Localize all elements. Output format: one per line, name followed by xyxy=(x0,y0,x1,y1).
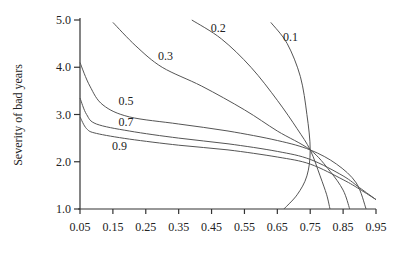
y-tick-label: 5.0 xyxy=(56,13,71,27)
y-tick-label: 4.0 xyxy=(56,60,71,74)
x-tick-label: 0.75 xyxy=(300,220,321,234)
curve-label: 0.5 xyxy=(119,94,134,108)
curve-label: 0.2 xyxy=(211,21,226,35)
y-tick-label: 1.0 xyxy=(56,202,71,216)
curve-0.1 xyxy=(271,22,310,209)
x-tick-label: 0.15 xyxy=(102,220,123,234)
curve-0.3 xyxy=(113,22,350,209)
x-tick-label: 0.35 xyxy=(168,220,189,234)
y-axis-title: Severity of bad years xyxy=(11,64,25,166)
curve-label: 0.1 xyxy=(283,30,298,44)
x-tick-label: 0.65 xyxy=(267,220,288,234)
curve-label: 0.7 xyxy=(119,115,134,129)
x-tick-label: 0.05 xyxy=(70,220,91,234)
curve-0.2 xyxy=(192,20,330,209)
x-tick-label: 0.25 xyxy=(135,220,156,234)
x-tick-label: 0.45 xyxy=(201,220,222,234)
curve-label: 0.9 xyxy=(112,139,127,153)
curve-0.5 xyxy=(80,63,366,210)
chart: Severity of bad years 1.02.03.04.05.00.0… xyxy=(0,0,396,256)
curve-label: 0.3 xyxy=(158,49,173,63)
x-tick-label: 0.85 xyxy=(333,220,354,234)
svg-text:Severity of bad years: Severity of bad years xyxy=(11,64,25,166)
axes: 1.02.03.04.05.00.050.150.250.350.450.550… xyxy=(56,13,387,234)
y-tick-label: 3.0 xyxy=(56,108,71,122)
x-tick-label: 0.55 xyxy=(234,220,255,234)
y-tick-label: 2.0 xyxy=(56,155,71,169)
x-tick-label: 0.95 xyxy=(366,220,387,234)
